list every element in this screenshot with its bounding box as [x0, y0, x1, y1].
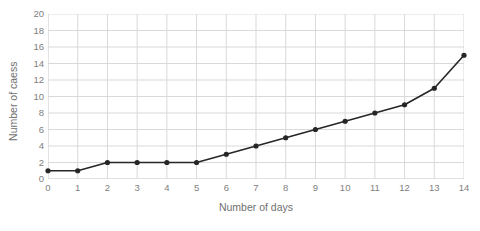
x-tick-label: 11 — [370, 183, 380, 193]
x-tick-label: 7 — [253, 183, 258, 193]
x-tick-label: 0 — [45, 183, 50, 193]
x-tick-label: 8 — [283, 183, 288, 193]
x-tick-label: 14 — [459, 183, 470, 193]
chart-series-line — [48, 14, 464, 179]
x-tick-label: 13 — [429, 183, 440, 193]
x-tick-label: 2 — [105, 183, 110, 193]
line-chart: 02468101214161820 Number of caess 012345… — [0, 0, 480, 231]
x-tick-label: 5 — [194, 183, 199, 193]
plot-area — [48, 14, 464, 179]
y-tick-label: 4 — [0, 141, 44, 151]
y-tick-label: 0 — [0, 174, 44, 184]
x-axis-title: Number of days — [48, 202, 464, 213]
y-tick-label: 16 — [0, 42, 44, 52]
y-tick-label: 18 — [0, 26, 44, 36]
x-tick-label: 10 — [340, 183, 351, 193]
x-tick-label: 9 — [313, 183, 318, 193]
x-tick-label: 1 — [75, 183, 80, 193]
x-tick-label: 12 — [399, 183, 410, 193]
x-tick-label: 4 — [164, 183, 169, 193]
y-tick-label: 2 — [0, 158, 44, 168]
x-tick-label: 6 — [224, 183, 229, 193]
y-tick-label: 20 — [0, 9, 44, 19]
x-tick-label: 3 — [134, 183, 139, 193]
x-axis-tick-labels: 01234567891011121314 — [48, 183, 464, 197]
y-axis-title: Number of caess — [8, 41, 19, 161]
